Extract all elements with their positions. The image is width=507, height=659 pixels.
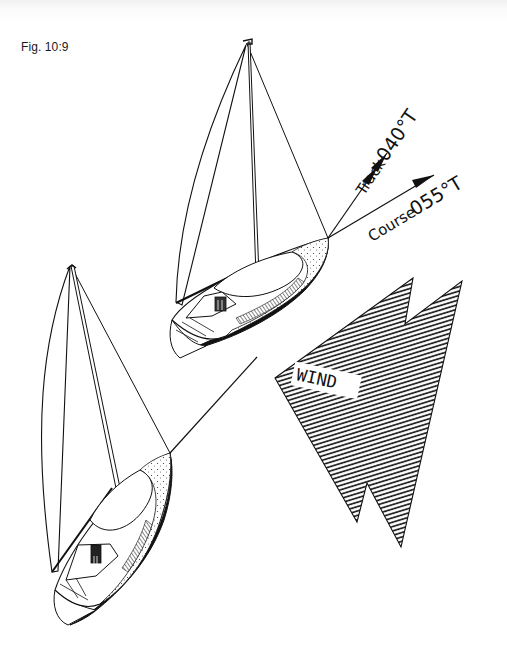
mast-lower [71, 266, 124, 508]
mast-upper [248, 42, 259, 276]
companionway-upper [215, 297, 226, 311]
forestay-upper [247, 44, 328, 238]
yacht-upper [170, 39, 328, 358]
yacht-lower [42, 265, 172, 625]
wind-shape [275, 278, 462, 547]
sailing-diagram: Track 040°T Course 055°T WIND [0, 0, 507, 659]
track-bearing: 040°T [371, 105, 422, 165]
companionway-lower [91, 545, 101, 563]
figure-page: Fig. 10:9 [0, 0, 507, 659]
forestay-lower [71, 266, 170, 453]
track-label: Track 040°T [349, 105, 422, 199]
mainsail-upper [176, 45, 246, 305]
track-line-between-positions [170, 357, 257, 453]
mainsail-lower [42, 266, 70, 572]
hatched-zigzag-wind-arrow: WIND [275, 278, 462, 547]
course-bearing: 055°T [406, 171, 467, 220]
bearing-arrows: Track 040°T Course 055°T [328, 105, 466, 246]
